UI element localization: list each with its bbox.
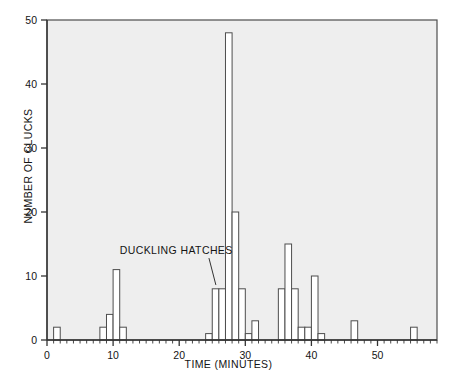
histogram-bar <box>318 334 325 340</box>
chart-figure: DUCKLING HATCHES 01020304050 01020304050… <box>0 0 457 380</box>
x-axis-title: TIME (MINUTES) <box>0 358 457 370</box>
histogram-bar <box>106 314 113 340</box>
histogram-bar <box>351 321 358 340</box>
y-tick-label: 0 <box>31 334 37 346</box>
histogram-bar <box>54 327 61 340</box>
histogram-bar <box>298 327 305 340</box>
histogram-bar <box>120 327 127 340</box>
histogram-bar <box>311 276 318 340</box>
histogram-bar <box>245 334 252 340</box>
histogram-bar <box>113 270 120 340</box>
histogram-bar <box>252 321 259 340</box>
histogram-bar <box>206 334 213 340</box>
clucks-histogram: DUCKLING HATCHES 01020304050 01020304050 <box>0 0 457 380</box>
histogram-bar <box>219 289 226 340</box>
y-axis-title: NUMBER OF CLUCKS <box>22 81 34 251</box>
histogram-bar <box>305 327 312 340</box>
histogram-bar <box>100 327 107 340</box>
y-tick-label: 10 <box>25 270 37 282</box>
histogram-bar <box>232 212 239 340</box>
histogram-bar <box>225 33 232 340</box>
y-tick-label: 50 <box>25 14 37 26</box>
histogram-bar <box>239 289 246 340</box>
annotation-duckling-hatches: DUCKLING HATCHES <box>120 244 233 256</box>
histogram-bar <box>285 244 292 340</box>
histogram-bar <box>212 289 219 340</box>
histogram-bar <box>278 289 285 340</box>
histogram-bar <box>411 327 418 340</box>
histogram-bar <box>292 289 299 340</box>
